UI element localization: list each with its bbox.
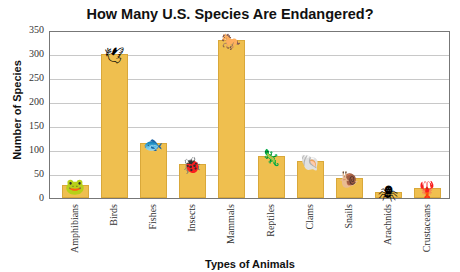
- y-tick-label: 350: [14, 24, 44, 35]
- y-tick-label: 300: [14, 48, 44, 59]
- clam-icon: 🐚: [295, 155, 325, 171]
- chart-title: How Many U.S. Species Are Endangered?: [0, 6, 460, 22]
- x-tick-label: Amphibians: [69, 204, 80, 253]
- x-tick-label: Snails: [343, 204, 354, 228]
- x-tick-label: Crustaceans: [421, 204, 432, 252]
- y-tick-label: 150: [14, 120, 44, 131]
- x-tick-label: Reptiles: [265, 204, 276, 237]
- x-tick-label: Fishes: [147, 204, 158, 230]
- frog-icon: 🐸: [60, 179, 90, 195]
- x-axis-label: Types of Animals: [205, 258, 295, 270]
- horse-icon: 🐎: [216, 34, 246, 50]
- snail-icon: 🐌: [334, 172, 364, 188]
- y-tick-label: 250: [14, 72, 44, 83]
- bar-birds: [101, 54, 128, 198]
- x-tick-label: Arachnids: [382, 204, 393, 245]
- lizard-icon: 🦎: [256, 150, 286, 166]
- x-tick-label: Mammals: [225, 204, 236, 244]
- y-tick-label: 200: [14, 96, 44, 107]
- x-tick-label: Birds: [108, 204, 119, 226]
- x-tick-label: Insects: [186, 204, 197, 232]
- y-tick-label: 0: [14, 192, 44, 203]
- spider-icon: 🕷: [373, 186, 403, 202]
- fish-icon: 🐟: [138, 137, 168, 153]
- x-tick-label: Clams: [304, 204, 315, 230]
- plot-area: 🐸🕊🐟🐞🐎🦎🐚🐌🕷🦞: [49, 31, 450, 199]
- bar-mammals: [218, 40, 245, 198]
- ladybug-icon: 🐞: [177, 158, 207, 174]
- crayfish-icon: 🦞: [412, 182, 442, 198]
- y-tick-label: 100: [14, 144, 44, 155]
- bird-icon: 🕊: [99, 48, 129, 64]
- y-tick-label: 50: [14, 168, 44, 179]
